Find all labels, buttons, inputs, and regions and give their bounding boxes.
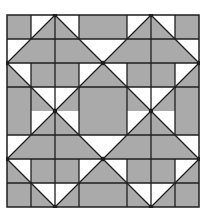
gray-square <box>103 183 127 207</box>
quilt-content <box>6 14 200 208</box>
gray-square <box>175 87 199 111</box>
gray-square <box>79 15 103 39</box>
gray-square <box>7 183 31 207</box>
gray-square <box>79 183 103 207</box>
gray-square <box>151 159 175 183</box>
gray-square <box>7 15 31 39</box>
gray-square <box>103 111 127 135</box>
gray-square <box>7 87 31 111</box>
gray-square <box>175 111 199 135</box>
quilt-block <box>7 111 103 207</box>
quilt-block <box>103 15 199 111</box>
gray-square <box>175 183 199 207</box>
gray-square <box>55 159 79 183</box>
gray-square <box>103 15 127 39</box>
gray-square <box>175 15 199 39</box>
quilt-block <box>7 15 103 111</box>
vertex-dot <box>101 157 105 161</box>
vertex-dot <box>149 109 153 113</box>
gray-square <box>79 87 103 111</box>
gray-square <box>31 63 55 87</box>
vertex-dot <box>53 109 57 113</box>
gray-square <box>127 159 151 183</box>
gray-square <box>151 63 175 87</box>
gray-square <box>103 87 127 111</box>
gray-square <box>127 63 151 87</box>
quilt-diagram <box>6 14 200 208</box>
gray-square <box>55 63 79 87</box>
gray-square <box>79 111 103 135</box>
gray-square <box>31 159 55 183</box>
vertex-dot <box>101 61 105 65</box>
gray-square <box>7 111 31 135</box>
quilt-block <box>103 111 199 207</box>
